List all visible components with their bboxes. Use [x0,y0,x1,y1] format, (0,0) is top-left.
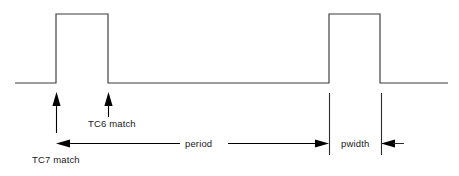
timing-diagram: TC6 match TC7 match period pwidth [0,0,459,176]
tc6-match-marker [104,92,112,117]
tc7-match-marker [52,92,60,133]
waveform-figure: TC6 match TC7 match period pwidth [0,0,459,176]
tc7-match-label: TC7 match [32,154,80,165]
pwidth-right-arrow-head [381,139,395,147]
period-right-arrow-head [315,139,329,147]
tc6-match-label: TC6 match [88,118,136,129]
timer-output-waveform [15,14,448,83]
pwidth-label: pwidth [341,138,369,149]
tc7-arrow-head [52,92,60,106]
period-label: period [185,138,212,149]
signal-trace-group [15,14,448,83]
pwidth-dimension [381,139,404,147]
period-left-arrow-head [56,139,70,147]
tc6-arrow-head [104,92,112,106]
